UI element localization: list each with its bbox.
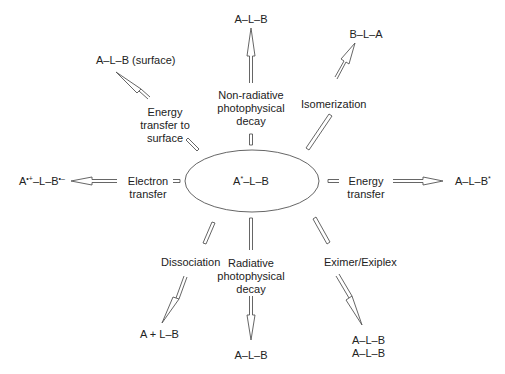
arrow-dissociation bbox=[162, 222, 215, 323]
product-isomerization: B–L–A bbox=[349, 28, 382, 41]
label-radiative: Radiative photophysical decay bbox=[217, 257, 284, 296]
product-nonradiative: A–L–B bbox=[234, 13, 267, 26]
product-eximer: A–L–B A–L–B bbox=[352, 334, 385, 360]
label-electron-transfer: Electron transfer bbox=[128, 175, 168, 201]
product-energy-transfer-main: A–L–B bbox=[455, 175, 488, 187]
product-energy-transfer-sup: * bbox=[488, 175, 491, 182]
product-radiative: A–L–B bbox=[234, 349, 267, 362]
label-dissociation: Dissociation bbox=[161, 256, 220, 269]
arrow-eximer bbox=[313, 217, 362, 325]
product-energy-transfer: A–L–B* bbox=[455, 175, 491, 188]
arrow-isomerization bbox=[306, 43, 355, 150]
photochemical-pathways-diagram: A*–L–B A–L–B Non-radiative photophysical… bbox=[0, 0, 505, 374]
product-et-mid: –L–B bbox=[33, 175, 59, 187]
excited-state-label: A*–L–B bbox=[233, 175, 269, 188]
label-eximer: Eximer/Exiplex bbox=[324, 256, 397, 269]
label-nonradiative: Non-radiative photophysical decay bbox=[217, 89, 284, 128]
center-label-rest: –L–B bbox=[243, 175, 269, 187]
arrow-energy-transfer bbox=[328, 177, 443, 185]
product-et-b-sup: •– bbox=[59, 175, 65, 182]
label-surface: Energy transfer to surface bbox=[140, 106, 190, 145]
label-energy-transfer: Energy transfer bbox=[347, 175, 384, 201]
label-isomerization: Isomerization bbox=[301, 98, 366, 111]
product-surface: A–L–B (surface) bbox=[96, 54, 175, 67]
product-dissociation: A + L–B bbox=[140, 328, 179, 341]
product-electron-transfer: A•+–L–B•– bbox=[19, 175, 65, 188]
